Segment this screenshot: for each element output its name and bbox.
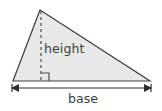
triangle-area-diagram: height base bbox=[0, 0, 162, 111]
height-label: height bbox=[44, 43, 84, 56]
base-label: base bbox=[0, 93, 162, 106]
